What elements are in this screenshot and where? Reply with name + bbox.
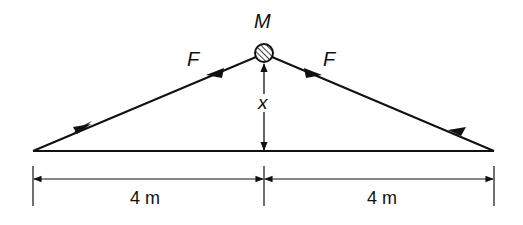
mass-label: M: [254, 10, 271, 32]
height-label: x: [257, 92, 269, 113]
force-right-label: F: [323, 48, 337, 70]
force-diagram: M F F x 4 m 4 m: [0, 0, 523, 225]
mass-icon: [255, 44, 273, 62]
left-span-label: 4 m: [130, 188, 160, 208]
force-left-label: F: [187, 48, 201, 70]
right-span-label: 4 m: [367, 188, 397, 208]
